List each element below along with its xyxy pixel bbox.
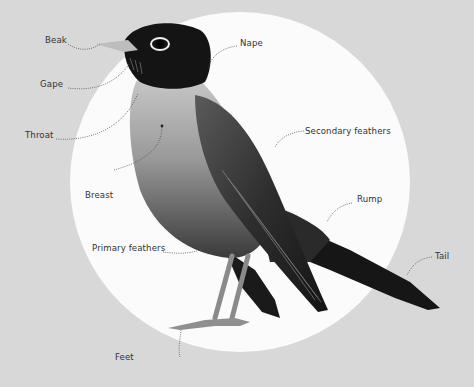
label-rump: Rump <box>357 195 382 204</box>
label-primary-feathers: Primary feathers <box>92 244 165 253</box>
label-secondary-feathers: Secondary feathers <box>305 127 391 136</box>
label-breast: Breast <box>85 191 113 200</box>
robin-illustration <box>0 0 474 387</box>
label-feet: Feet <box>115 353 134 362</box>
label-beak: Beak <box>45 36 67 45</box>
head-shape <box>124 23 211 89</box>
label-tail: Tail <box>435 252 449 261</box>
bird-anatomy-diagram: Beak Gape Throat Breast Primary feathers… <box>0 0 474 387</box>
label-gape: Gape <box>40 80 63 89</box>
label-nape: Nape <box>240 39 263 48</box>
label-throat: Throat <box>25 131 54 140</box>
feet-shape <box>168 318 250 330</box>
